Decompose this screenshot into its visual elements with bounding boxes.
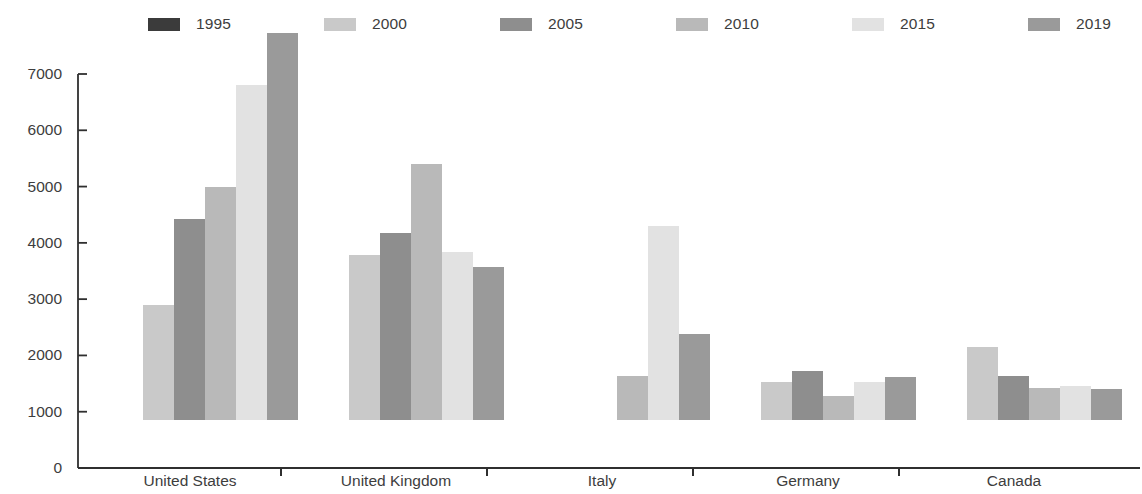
legend-swatch-icon xyxy=(852,18,884,31)
chart-plot-area: 01000200030004000500060007000 United Sta… xyxy=(0,48,1142,494)
legend-swatch-icon xyxy=(1028,18,1060,31)
legend-item-label: 2019 xyxy=(1076,15,1111,33)
legend-item-1995[interactable]: 1995 xyxy=(148,14,231,34)
legend-item-label: 2005 xyxy=(548,15,583,33)
x-axis-category-labels: United StatesUnited KingdomItalyGermanyC… xyxy=(0,48,1142,494)
legend-item-2019[interactable]: 2019 xyxy=(1028,14,1111,34)
legend-swatch-icon xyxy=(148,18,180,31)
legend-swatch-icon xyxy=(324,18,356,31)
legend-item-label: 2015 xyxy=(900,15,935,33)
legend-swatch-icon xyxy=(676,18,708,31)
x-axis-label-united-kingdom: United Kingdom xyxy=(341,472,451,490)
legend-item-2000[interactable]: 2000 xyxy=(324,14,407,34)
legend-item-label: 2000 xyxy=(372,15,407,33)
x-axis-label-united-states: United States xyxy=(143,472,236,490)
bar-chart-figure: 199520002005201020152019 010002000300040… xyxy=(0,0,1142,494)
x-axis-label-italy: Italy xyxy=(588,472,616,490)
legend-item-2010[interactable]: 2010 xyxy=(676,14,759,34)
legend-swatch-icon xyxy=(500,18,532,31)
x-axis-label-germany: Germany xyxy=(776,472,840,490)
legend-item-label: 1995 xyxy=(196,15,231,33)
legend-item-2005[interactable]: 2005 xyxy=(500,14,583,34)
legend-item-label: 2010 xyxy=(724,15,759,33)
chart-legend: 199520002005201020152019 xyxy=(0,0,1142,48)
x-axis-label-canada: Canada xyxy=(987,472,1041,490)
legend-item-2015[interactable]: 2015 xyxy=(852,14,935,34)
